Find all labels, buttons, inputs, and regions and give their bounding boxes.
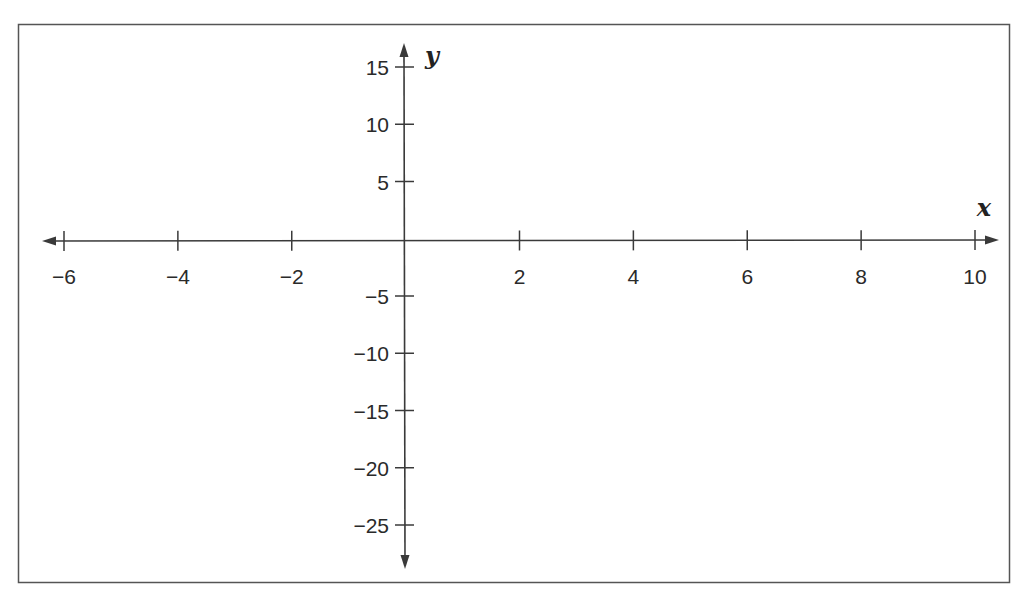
x-tick-label: 6	[741, 265, 753, 288]
y-axis-title: y	[424, 41, 441, 70]
y-tick-label: 15	[366, 56, 389, 79]
x-axis-right-arrow-icon	[985, 236, 999, 245]
y-tick-label: −5	[365, 285, 389, 308]
y-tick-label: 5	[377, 171, 389, 194]
x-axis-title: x	[976, 193, 992, 222]
y-tick-label: −20	[353, 457, 389, 480]
x-tick-label: 10	[963, 265, 986, 288]
x-tick-label: 4	[628, 265, 640, 288]
y-axis-down-arrow-icon	[401, 555, 410, 569]
y-tick-label: −25	[353, 514, 389, 537]
x-tick-label: −4	[166, 265, 190, 288]
x-tick-label: 2	[514, 265, 526, 288]
x-ticks: −6−4−2246810	[52, 230, 987, 288]
coordinate-plane: −6−4−2246810 x 15105−5−10−15−20−25 y	[0, 0, 1026, 598]
x-tick-label: 8	[855, 265, 867, 288]
x-tick-label: −6	[52, 265, 76, 288]
y-axis-line	[404, 52, 405, 560]
x-axis: −6−4−2246810 x	[42, 193, 999, 288]
y-axis-up-arrow-icon	[400, 43, 409, 57]
y-tick-label: 10	[366, 113, 389, 136]
x-tick-label: −2	[280, 265, 304, 288]
x-axis-left-arrow-icon	[42, 237, 56, 246]
y-tick-label: −10	[353, 342, 389, 365]
plot-frame	[19, 25, 1010, 583]
y-tick-label: −15	[353, 400, 389, 423]
y-axis: 15105−5−10−15−20−25 y	[353, 41, 441, 569]
